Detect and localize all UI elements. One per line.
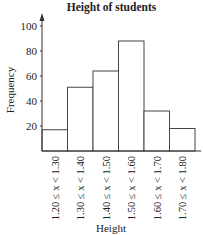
y-tick-label: 100 [21,20,38,32]
y-axis-arrow-icon [40,13,45,21]
x-tick-label: 1.60 ≤ x < 1.70 [152,156,163,220]
x-tick-label: 1.70 ≤ x < 1.80 [177,156,188,220]
x-tick-label: 1.20 ≤ x < 1.30 [50,156,61,220]
y-axis-label: Frequency [4,66,16,113]
y-tick-label: 20 [26,120,38,132]
bar [119,41,145,151]
y-tick-label: 80 [26,45,38,57]
x-tick-label: 1.50 ≤ x < 1.60 [126,156,137,220]
histogram: 20406080100Frequency1.20 ≤ x < 1.301.30 … [0,0,203,235]
x-tick-label: 1.30 ≤ x < 1.40 [75,156,86,220]
bar [68,87,94,151]
bar [170,129,196,152]
y-tick-label: 60 [26,70,38,82]
bar [144,111,170,151]
y-tick-label: 40 [26,95,38,107]
bar [42,130,68,151]
x-tick-label: 1.40 ≤ x < 1.50 [101,156,112,220]
x-axis-label: Height [96,222,126,234]
bar [93,71,119,151]
